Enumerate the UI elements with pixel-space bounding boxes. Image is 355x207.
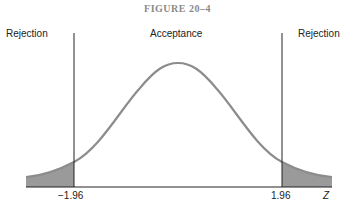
tick-label-neg-1-96: −1.96 — [58, 190, 83, 201]
normal-curve-plot — [0, 0, 355, 207]
z-axis-label: Z — [323, 190, 329, 201]
bell-curve — [26, 63, 332, 177]
tick-label-pos-1-96: 1.96 — [271, 190, 290, 201]
